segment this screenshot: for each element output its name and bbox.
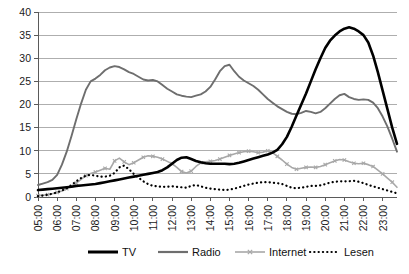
legend-label-tv: TV <box>122 246 137 258</box>
y-axis-tick-label: 25 <box>19 75 31 87</box>
y-axis-ticks <box>34 12 38 197</box>
y-axis-tick-label: 0 <box>25 191 31 203</box>
x-axis-tick-label: 18:00 <box>281 205 293 231</box>
gridlines <box>38 12 397 197</box>
x-axis-tick-label: 21:00 <box>338 205 350 231</box>
media-usage-line-chart: 0510152025303540 05:0006:0007:0008:0009:… <box>0 0 409 274</box>
x-axis-labels: 05:0006:0007:0008:0009:0010:0011:0012:00… <box>32 205 389 231</box>
x-axis-tick-label: 15:00 <box>223 205 235 231</box>
x-axis-tick-label: 05:00 <box>32 205 44 231</box>
chart-container: 0510152025303540 05:0006:0007:0008:0009:… <box>0 0 409 274</box>
series-line-radio <box>38 65 397 185</box>
x-axis-tick-label: 08:00 <box>89 205 101 231</box>
y-axis-tick-label: 5 <box>25 168 31 180</box>
legend-label-radio: Radio <box>192 246 221 258</box>
series-line-tv <box>38 27 397 190</box>
chart-legend: TVRadioInternetLesen <box>88 246 374 258</box>
x-axis-tick-label: 11:00 <box>147 205 159 231</box>
x-axis-tick-label: 07:00 <box>70 205 82 231</box>
x-axis-ticks <box>38 197 383 201</box>
x-axis-tick-label: 12:00 <box>166 205 178 231</box>
x-axis-tick-label: 14:00 <box>204 205 216 231</box>
x-axis-tick-label: 19:00 <box>300 205 312 231</box>
x-axis-tick-label: 13:00 <box>185 205 197 231</box>
x-axis-tick-label: 10:00 <box>128 205 140 231</box>
x-axis-tick-label: 23:00 <box>377 205 389 231</box>
y-axis-tick-label: 35 <box>19 29 31 41</box>
y-axis-labels: 0510152025303540 <box>19 6 31 203</box>
y-axis-tick-label: 10 <box>19 145 31 157</box>
series-line-lesen <box>38 166 397 197</box>
x-axis-tick-label: 09:00 <box>109 205 121 231</box>
y-axis-tick-label: 30 <box>19 52 31 64</box>
series-lines <box>36 27 397 197</box>
y-axis-tick-label: 20 <box>19 98 31 110</box>
series-line-internet <box>38 151 397 196</box>
x-axis-tick-label: 17:00 <box>262 205 274 231</box>
x-axis-tick-label: 20:00 <box>319 205 331 231</box>
y-axis-tick-label: 40 <box>19 6 31 18</box>
y-axis-tick-label: 15 <box>19 121 31 133</box>
x-axis-tick-label: 22:00 <box>357 205 369 231</box>
legend-label-lesen: Lesen <box>344 246 374 258</box>
legend-label-internet: Internet <box>269 246 306 258</box>
x-axis-tick-label: 16:00 <box>243 205 255 231</box>
x-axis-tick-label: 06:00 <box>51 205 63 231</box>
